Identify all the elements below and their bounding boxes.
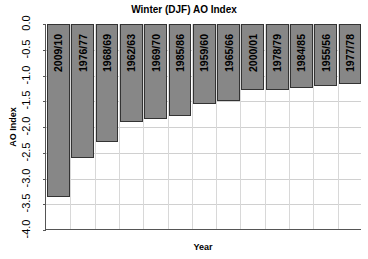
bar: 1978/79 bbox=[266, 24, 289, 90]
y-tick-mark bbox=[43, 204, 46, 205]
chart-title: Winter (DJF) AO Index bbox=[0, 4, 368, 15]
bar-label: 2009/10 bbox=[52, 34, 64, 72]
bar-label: 1984/85 bbox=[295, 34, 307, 72]
bar-label: 1962/63 bbox=[125, 34, 137, 72]
bar: 2000/01 bbox=[241, 24, 264, 90]
bar: 1955/56 bbox=[314, 24, 337, 86]
bar: 1965/66 bbox=[217, 24, 240, 101]
y-tick-label: 0.0 bbox=[20, 12, 32, 34]
y-tick-label: -4.0 bbox=[20, 218, 32, 240]
y-tick-mark bbox=[43, 153, 46, 154]
y-tick-label: -2.0 bbox=[20, 115, 32, 137]
bar-label: 1968/69 bbox=[101, 34, 113, 72]
y-tick-label: -1.0 bbox=[20, 64, 32, 86]
plot-area: 2009/101976/771968/691962/631969/701985/… bbox=[45, 24, 361, 230]
y-tick-mark bbox=[43, 24, 46, 25]
bar: 1976/77 bbox=[71, 24, 94, 158]
bar-label: 1976/77 bbox=[77, 34, 89, 72]
y-tick-label: -1.5 bbox=[20, 89, 32, 111]
bar-label: 1985/86 bbox=[174, 34, 186, 72]
bar-label: 1955/56 bbox=[320, 34, 332, 72]
y-tick-mark bbox=[43, 127, 46, 128]
y-tick-label: -2.5 bbox=[20, 141, 32, 163]
bar-label: 1969/70 bbox=[150, 34, 162, 72]
y-tick-label: -0.5 bbox=[20, 38, 32, 60]
bar-label: 2000/01 bbox=[247, 34, 259, 72]
x-axis-label: Year bbox=[45, 242, 361, 252]
y-axis-label: AO Index bbox=[8, 92, 18, 162]
bar: 1959/60 bbox=[193, 24, 216, 104]
bar: 1977/78 bbox=[339, 24, 362, 84]
bar: 1969/70 bbox=[144, 24, 167, 119]
y-tick-mark bbox=[43, 230, 46, 231]
bar: 2009/10 bbox=[47, 24, 70, 197]
bar-label: 1977/78 bbox=[344, 34, 356, 72]
bar: 1985/86 bbox=[169, 24, 192, 116]
y-tick-mark bbox=[43, 179, 46, 180]
bar-label: 1965/66 bbox=[223, 34, 235, 72]
y-tick-mark bbox=[43, 50, 46, 51]
y-tick-label: -3.0 bbox=[20, 167, 32, 189]
bar-label: 1978/79 bbox=[271, 34, 283, 72]
y-tick-mark bbox=[43, 101, 46, 102]
bar: 1984/85 bbox=[290, 24, 313, 88]
y-tick-label: -3.5 bbox=[20, 192, 32, 214]
bar-label: 1959/60 bbox=[198, 34, 210, 72]
y-tick-mark bbox=[43, 76, 46, 77]
bar: 1968/69 bbox=[96, 24, 119, 142]
bar: 1962/63 bbox=[120, 24, 143, 122]
